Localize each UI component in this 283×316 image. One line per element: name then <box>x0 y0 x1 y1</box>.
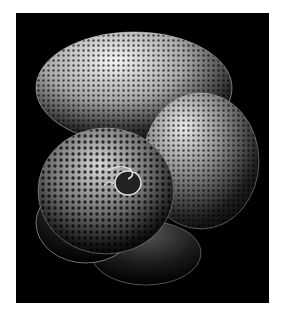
foraminifera-micrograph <box>16 13 269 303</box>
micrograph-frame <box>16 13 269 303</box>
chamber-front <box>38 128 174 254</box>
